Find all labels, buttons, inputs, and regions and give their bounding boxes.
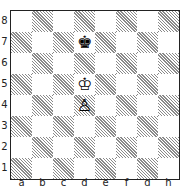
square-g2	[137, 137, 158, 158]
square-b5	[32, 74, 53, 95]
square-h5	[158, 74, 179, 95]
square-a6	[11, 53, 32, 74]
square-e5	[95, 74, 116, 95]
square-h8	[158, 11, 179, 32]
square-c4	[53, 95, 74, 116]
square-c3	[53, 116, 74, 137]
rank-label-2: 2	[0, 141, 9, 152]
square-d5: ♔	[74, 74, 95, 95]
square-h2	[158, 137, 179, 158]
file-label-h: h	[158, 177, 179, 186]
square-b4	[32, 95, 53, 116]
square-c5	[53, 74, 74, 95]
rank-label-4: 4	[0, 99, 9, 110]
square-c8	[53, 11, 74, 32]
square-f2	[116, 137, 137, 158]
square-b2	[32, 137, 53, 158]
square-d4: ♙	[74, 95, 95, 116]
square-g8	[137, 11, 158, 32]
square-a4	[11, 95, 32, 116]
square-a5	[11, 74, 32, 95]
square-e2	[95, 137, 116, 158]
square-h6	[158, 53, 179, 74]
file-label-b: b	[32, 177, 53, 186]
square-g3	[137, 116, 158, 137]
square-f3	[116, 116, 137, 137]
square-f4	[116, 95, 137, 116]
file-label-c: c	[53, 177, 74, 186]
file-label-g: g	[137, 177, 158, 186]
file-label-d: d	[74, 177, 95, 186]
file-label-f: f	[116, 177, 137, 186]
square-g5	[137, 74, 158, 95]
square-b3	[32, 116, 53, 137]
square-d3	[74, 116, 95, 137]
rank-label-6: 6	[0, 57, 9, 68]
square-c6	[53, 53, 74, 74]
square-g4	[137, 95, 158, 116]
square-b8	[32, 11, 53, 32]
square-d2	[74, 137, 95, 158]
square-a3	[11, 116, 32, 137]
rank-label-5: 5	[0, 78, 9, 89]
file-label-e: e	[95, 177, 116, 186]
square-f1	[116, 158, 137, 179]
square-h7	[158, 32, 179, 53]
square-c7	[53, 32, 74, 53]
square-e6	[95, 53, 116, 74]
chess-board: ♚♔♙	[10, 10, 180, 180]
file-label-a: a	[11, 177, 32, 186]
black-king-icon: ♚	[77, 32, 92, 53]
square-e1	[95, 158, 116, 179]
square-d7: ♚	[74, 32, 95, 53]
square-h3	[158, 116, 179, 137]
square-e3	[95, 116, 116, 137]
square-h1	[158, 158, 179, 179]
rank-label-7: 7	[0, 36, 9, 47]
square-d6	[74, 53, 95, 74]
square-b1	[32, 158, 53, 179]
square-f5	[116, 74, 137, 95]
square-b6	[32, 53, 53, 74]
square-a8	[11, 11, 32, 32]
square-g7	[137, 32, 158, 53]
rank-label-3: 3	[0, 120, 9, 131]
square-f6	[116, 53, 137, 74]
square-h4	[158, 95, 179, 116]
square-a1	[11, 158, 32, 179]
square-g6	[137, 53, 158, 74]
rank-label-1: 1	[0, 162, 9, 173]
square-b7	[32, 32, 53, 53]
square-e4	[95, 95, 116, 116]
square-e7	[95, 32, 116, 53]
white-king-icon: ♔	[77, 74, 92, 95]
square-f8	[116, 11, 137, 32]
square-e8	[95, 11, 116, 32]
square-c1	[53, 158, 74, 179]
square-d8	[74, 11, 95, 32]
square-c2	[53, 137, 74, 158]
square-a7	[11, 32, 32, 53]
square-a2	[11, 137, 32, 158]
square-f7	[116, 32, 137, 53]
square-d1	[74, 158, 95, 179]
rank-label-8: 8	[0, 15, 9, 26]
white-pawn-icon: ♙	[77, 95, 92, 116]
square-g1	[137, 158, 158, 179]
